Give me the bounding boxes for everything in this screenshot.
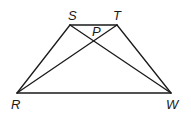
segment-tw bbox=[117, 25, 171, 93]
segment-rt bbox=[17, 25, 117, 93]
label-p: P bbox=[92, 24, 101, 39]
trapezoid-diagram: S T P R W bbox=[0, 0, 191, 114]
label-r: R bbox=[11, 97, 20, 112]
label-s: S bbox=[68, 8, 77, 23]
segment-rs bbox=[17, 25, 70, 93]
segment-sw bbox=[70, 25, 171, 93]
label-t: T bbox=[113, 8, 122, 23]
vertex-labels: S T P R W bbox=[11, 8, 180, 112]
label-w: W bbox=[166, 97, 180, 112]
